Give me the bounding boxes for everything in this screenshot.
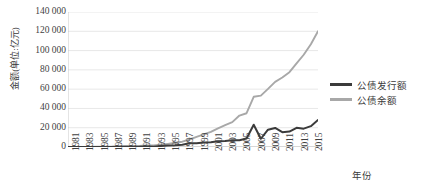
- x-tick-label: 2003: [229, 133, 239, 151]
- legend-swatch: [330, 83, 352, 86]
- legend-item[interactable]: 公债余额: [330, 93, 434, 106]
- x-axis-title: 年份: [352, 168, 372, 182]
- x-tick-label: 2005: [243, 133, 253, 151]
- bond-chart: 金额(单位:亿元) 140 000120 000100 00080 00060 …: [0, 0, 435, 189]
- legend-swatch: [330, 98, 352, 101]
- legend-item[interactable]: 公债发行额: [330, 78, 434, 91]
- chart-legend: 公债发行额公债余额: [330, 78, 434, 108]
- x-tick-label: 2009: [272, 133, 282, 151]
- legend-label: 公债余额: [357, 93, 397, 107]
- x-tick-label: 1991: [143, 133, 153, 151]
- x-tick-label: 1981: [72, 133, 82, 151]
- x-tick-label: 2001: [215, 133, 225, 151]
- x-tick-label: 1983: [86, 133, 96, 151]
- x-tick-label: 2013: [301, 133, 311, 151]
- x-tick-label: 1989: [129, 133, 139, 151]
- x-tick-label: 1993: [158, 133, 168, 151]
- x-tick-label: 1995: [172, 133, 182, 151]
- x-tick-label: 1985: [101, 133, 111, 151]
- x-tick-label: 1987: [115, 133, 125, 151]
- legend-label: 公债发行额: [357, 78, 407, 92]
- x-tick-label: 2007: [258, 133, 268, 151]
- x-tick-label: 2011: [286, 133, 296, 151]
- x-tick-label: 2015: [315, 133, 325, 151]
- x-tick-label: 1997: [186, 133, 196, 151]
- x-tick-label: 1999: [201, 133, 211, 151]
